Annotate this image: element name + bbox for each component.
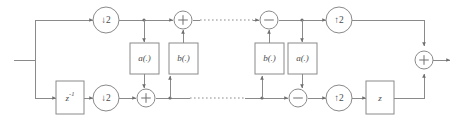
lift-a-right-label: a(.) [296, 53, 309, 63]
delay-input-block[interactable]: z-1 [56, 81, 84, 114]
subtractor-top-right[interactable]: − [260, 11, 278, 29]
adder-bottom-left[interactable]: + [137, 89, 155, 107]
lift-b-right-block[interactable]: b(.) [255, 43, 284, 74]
upsampler-bottom[interactable]: ↑2 [326, 85, 352, 111]
adder-top-left[interactable]: + [174, 11, 192, 29]
lift-b-left-label: b(.) [177, 53, 190, 63]
downsampler-bottom[interactable]: ↓2 [93, 85, 119, 111]
lift-a-right-block[interactable]: a(.) [288, 43, 317, 74]
adder-output[interactable]: + [415, 51, 433, 69]
downsampler-top[interactable]: ↓2 [93, 7, 119, 33]
lift-b-right-label: b(.) [263, 53, 276, 63]
lift-a-left-block[interactable]: a(.) [130, 43, 159, 74]
delay-output-label: z [377, 93, 382, 103]
filter-bank-diagram: ↓2 + − ↑2 z-1 ↓2 [0, 0, 457, 122]
upsampler-top[interactable]: ↑2 [326, 7, 352, 33]
subtractor-bottom-right[interactable]: − [289, 89, 307, 107]
delay-output-block[interactable]: z [366, 81, 394, 114]
block-diagram-canvas: ↓2 + − ↑2 z-1 ↓2 [0, 0, 457, 122]
lift-a-left-label: a(.) [138, 53, 151, 63]
lift-b-left-block[interactable]: b(.) [169, 43, 198, 74]
upsampler-bottom-label: ↑2 [334, 93, 344, 103]
downsampler-bottom-label: ↓2 [101, 93, 111, 103]
downsampler-top-label: ↓2 [101, 15, 111, 25]
upsampler-top-label: ↑2 [334, 15, 344, 25]
